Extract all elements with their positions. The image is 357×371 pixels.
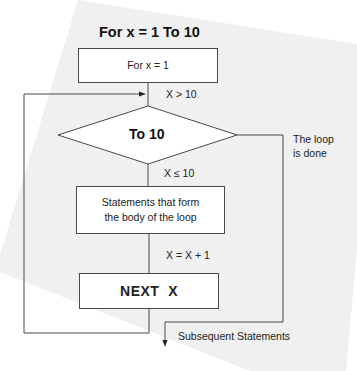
done-label-line1: The loop [293, 134, 334, 145]
loop-body-box: Statements that form the body of the loo… [76, 186, 225, 234]
loop-body-line2: the body of the loop [104, 210, 196, 225]
diagram-title: For x = 1 To 10 [99, 25, 200, 40]
decision-label: To 10 [129, 127, 165, 141]
done-label-line2: is done [293, 148, 327, 159]
exit-condition-label: X > 10 [166, 89, 197, 100]
loop-body-line1: Statements that form [102, 195, 199, 210]
next-box: NEXT X [79, 273, 219, 309]
init-label: For x = 1 [127, 58, 169, 73]
init-box: For x = 1 [78, 48, 218, 83]
flowchart-stage: For x = 1 To 10 For x = 1 X > 10 To 10 T… [0, 0, 357, 371]
increment-label: X = X + 1 [166, 250, 210, 261]
continue-condition-label: X ≤ 10 [164, 168, 194, 179]
next-label: NEXT X [120, 284, 178, 299]
subsequent-statements-label: Subsequent Statements [178, 331, 290, 342]
exit-arrowhead-icon [163, 340, 168, 347]
